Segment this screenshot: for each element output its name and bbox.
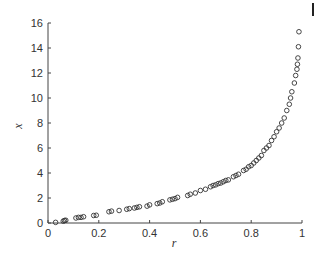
y-tick-label: 14 — [31, 42, 43, 54]
data-point — [53, 220, 58, 225]
x-tick-label: 0.4 — [142, 227, 157, 239]
x-tick-label: 0.8 — [244, 227, 259, 239]
x-tick-label: 0.2 — [91, 227, 106, 239]
data-point — [203, 187, 208, 192]
data-point — [295, 67, 300, 72]
data-point — [296, 56, 301, 61]
data-point — [296, 44, 301, 49]
axes: 00.20.40.60.810246810121416 — [31, 17, 305, 239]
data-point — [277, 126, 282, 131]
y-tick-label: 16 — [31, 17, 43, 29]
data-point — [117, 208, 122, 213]
data-point — [288, 96, 293, 101]
data-point — [297, 29, 302, 34]
y-tick-label: 6 — [37, 142, 43, 154]
y-tick-label: 12 — [31, 67, 43, 79]
data-point — [279, 121, 284, 126]
y-tick-label: 10 — [31, 92, 43, 104]
x-tick-label: 0.6 — [193, 227, 208, 239]
data-point — [198, 188, 203, 193]
x-tick-label: 0 — [45, 227, 51, 239]
x-axis-label: r — [172, 236, 177, 250]
page-margin-mark — [312, 3, 314, 16]
data-point — [287, 102, 292, 107]
x-tick-label: 1 — [299, 227, 305, 239]
data-point — [290, 89, 295, 94]
data-point — [295, 62, 300, 67]
data-point — [272, 134, 277, 139]
data-point — [293, 73, 298, 78]
data-point — [284, 108, 289, 113]
data-point — [193, 191, 198, 196]
y-tick-label: 4 — [37, 167, 43, 179]
y-tick-label: 2 — [37, 192, 43, 204]
data-point — [292, 81, 297, 86]
y-tick-label: 0 — [37, 217, 43, 229]
data-point — [282, 116, 287, 121]
scatter-chart: 00.20.40.60.810246810121416 r x — [0, 0, 321, 261]
y-tick-label: 8 — [37, 117, 43, 129]
y-axis-label: x — [11, 123, 25, 130]
data-points — [53, 29, 301, 224]
